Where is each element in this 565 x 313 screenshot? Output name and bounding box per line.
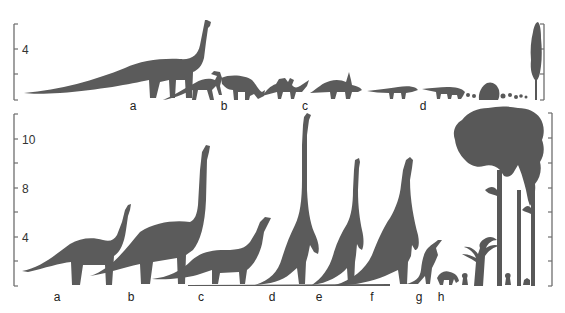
bottom-right-axis xyxy=(548,113,552,286)
bottom-tick-label-10: 10 xyxy=(22,133,36,147)
silhouette-bottom-a-sauropod xyxy=(22,204,131,285)
silhouette-top-d-ankylosaurs xyxy=(367,86,465,99)
top-label-a: a xyxy=(130,99,137,113)
bottom-label-d: d xyxy=(269,290,276,304)
bottom-label-g: g xyxy=(416,290,423,304)
bottom-panel: 10 8 4 xyxy=(14,107,552,305)
silhouette-top-a-sauropod xyxy=(24,20,211,98)
bottom-label-e: e xyxy=(316,290,323,304)
top-label-d: d xyxy=(420,99,427,113)
bottom-tick-label-4: 4 xyxy=(22,231,29,245)
bottom-tick-label-8: 8 xyxy=(22,182,29,196)
vegetation-bottom xyxy=(454,107,544,287)
dinosaur-height-comparison-figure: 4 xyxy=(0,0,565,313)
vegetation-top xyxy=(466,22,542,100)
silhouette-bottom-h-quadruped xyxy=(437,271,459,285)
ground-line xyxy=(188,284,390,286)
bottom-left-axis: 10 8 4 xyxy=(14,114,36,286)
bottom-label-c: c xyxy=(198,290,204,304)
top-label-b: b xyxy=(221,99,228,113)
silhouette-top-c-ceratopsians xyxy=(262,72,362,99)
silhouette-bottom-d-sauropod xyxy=(255,113,319,285)
top-label-c: c xyxy=(302,99,308,113)
bottom-label-a: a xyxy=(54,290,61,304)
bottom-label-h: h xyxy=(438,290,445,304)
top-left-axis: 4 xyxy=(14,24,29,100)
bottom-label-b: b xyxy=(128,290,135,304)
silhouette-bottom-e-sauropod xyxy=(312,158,364,285)
top-panel: 4 xyxy=(14,20,544,113)
top-tick-label-4: 4 xyxy=(22,43,29,57)
bottom-label-f: f xyxy=(370,290,374,304)
